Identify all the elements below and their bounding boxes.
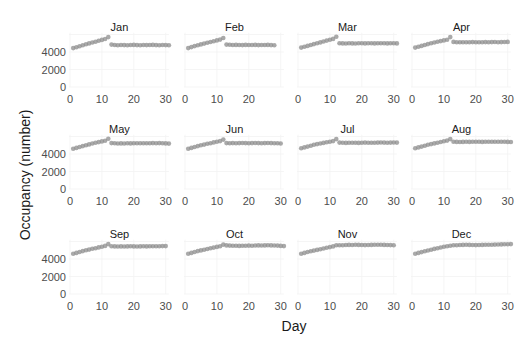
facet-title: Nov	[338, 228, 358, 240]
facet-title: May	[109, 123, 130, 135]
y-tick-label: 2000	[42, 271, 66, 283]
facet-panel-feb: Feb01020	[182, 21, 284, 105]
x-tick-label: 20	[470, 300, 482, 312]
x-tick-label: 10	[96, 195, 108, 207]
facet-title: Mar	[338, 21, 357, 33]
x-tick-label: 0	[409, 93, 415, 105]
x-tick-label: 10	[438, 195, 450, 207]
x-tick-label: 30	[160, 93, 172, 105]
facet-panel-jul: Jul0102030	[295, 123, 400, 207]
x-tick-label: 20	[470, 195, 482, 207]
facet-panels: Jan0102030020004000Feb01020Mar0102030Apr…	[42, 21, 514, 312]
y-tick-label: 4000	[42, 253, 66, 265]
x-tick-label: 30	[502, 93, 514, 105]
x-tick-label: 10	[211, 195, 223, 207]
x-tick-label: 30	[275, 300, 287, 312]
gridlines	[297, 33, 397, 87]
gridlines	[184, 240, 284, 294]
x-tick-label: 10	[211, 300, 223, 312]
y-axis-title: Occupancy (number)	[17, 110, 33, 241]
data-points	[413, 242, 513, 256]
x-tick-label: 0	[295, 195, 301, 207]
x-tick-label: 20	[243, 93, 255, 105]
x-tick-label: 20	[356, 300, 368, 312]
data-points	[186, 242, 286, 256]
data-points	[299, 34, 399, 49]
x-tick-label: 0	[409, 195, 415, 207]
facet-panel-dec: Dec0102030	[409, 228, 514, 312]
y-tick-label: 0	[60, 288, 66, 300]
x-tick-label: 0	[182, 195, 188, 207]
x-tick-label: 30	[388, 300, 400, 312]
facet-title: Jun	[226, 123, 244, 135]
gridlines	[184, 33, 284, 87]
x-tick-label: 20	[128, 300, 140, 312]
data-points	[71, 35, 171, 51]
data-points	[186, 137, 283, 151]
y-tick-label: 2000	[42, 166, 66, 178]
x-tick-label: 20	[243, 300, 255, 312]
facet-panel-sep: Sep0102030020004000	[42, 228, 172, 312]
x-tick-label: 30	[502, 300, 514, 312]
x-tick-label: 0	[182, 300, 188, 312]
facet-title: Jan	[111, 21, 129, 33]
x-tick-label: 10	[438, 93, 450, 105]
x-tick-label: 20	[128, 195, 140, 207]
x-tick-label: 30	[275, 195, 287, 207]
x-tick-label: 0	[67, 300, 73, 312]
x-tick-label: 0	[295, 300, 301, 312]
data-points	[413, 137, 513, 151]
x-tick-label: 0	[67, 195, 73, 207]
x-tick-label: 10	[96, 300, 108, 312]
y-tick-label: 0	[60, 183, 66, 195]
facet-title: Apr	[453, 21, 470, 33]
data-points	[299, 137, 399, 151]
facet-panel-jun: Jun0102030	[182, 123, 287, 207]
x-tick-label: 30	[160, 195, 172, 207]
x-tick-label: 20	[356, 93, 368, 105]
faceted-occupancy-chart: Jan0102030020004000Feb01020Mar0102030Apr…	[0, 0, 530, 347]
x-tick-label: 0	[67, 93, 73, 105]
facet-title: Feb	[225, 21, 244, 33]
gridlines	[69, 33, 169, 87]
data-points	[71, 242, 168, 256]
y-tick-label: 0	[60, 81, 66, 93]
x-tick-label: 0	[409, 300, 415, 312]
x-tick-label: 30	[388, 93, 400, 105]
facet-panel-apr: Apr0102030	[409, 21, 514, 105]
gridlines	[411, 240, 511, 294]
x-tick-label: 10	[324, 195, 336, 207]
x-tick-label: 20	[128, 93, 140, 105]
gridlines	[297, 240, 397, 294]
x-tick-label: 20	[356, 195, 368, 207]
x-tick-label: 10	[324, 93, 336, 105]
x-tick-label: 20	[470, 93, 482, 105]
facet-panel-aug: Aug0102030	[409, 123, 514, 207]
facet-panel-oct: Oct0102030	[182, 228, 287, 312]
facet-panel-may: May0102030020004000	[42, 123, 172, 207]
x-tick-label: 10	[438, 300, 450, 312]
facet-title: Dec	[452, 228, 472, 240]
x-tick-label: 0	[295, 93, 301, 105]
y-tick-label: 2000	[42, 64, 66, 76]
x-tick-label: 0	[182, 93, 188, 105]
data-points	[299, 242, 396, 256]
facet-panel-nov: Nov0102030	[295, 228, 400, 312]
data-points	[71, 136, 171, 151]
x-tick-label: 10	[324, 300, 336, 312]
y-tick-label: 4000	[42, 148, 66, 160]
facet-title: Sep	[110, 228, 130, 240]
facet-title: Aug	[452, 123, 472, 135]
x-axis-title: Day	[282, 318, 307, 334]
facet-title: Jul	[340, 123, 354, 135]
facet-panel-jan: Jan0102030020004000	[42, 21, 172, 105]
x-tick-label: 30	[160, 300, 172, 312]
data-points	[413, 35, 510, 50]
x-tick-label: 30	[502, 195, 514, 207]
x-tick-label: 10	[211, 93, 223, 105]
y-tick-label: 4000	[42, 46, 66, 58]
x-tick-label: 20	[243, 195, 255, 207]
x-tick-label: 30	[388, 195, 400, 207]
facet-panel-mar: Mar0102030	[295, 21, 400, 105]
data-points	[186, 36, 277, 51]
